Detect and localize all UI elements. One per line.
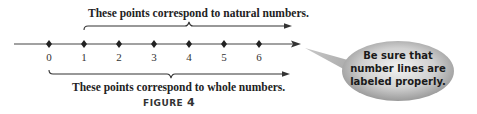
point-4 (186, 40, 192, 48)
figure-4-number-line: These points correspond to natural numbe… (0, 0, 477, 114)
point-3 (151, 40, 157, 48)
whole-numbers-caption: These points correspond to whole numbers… (72, 81, 285, 93)
whole-numbers-brace (49, 70, 286, 78)
tick-label-3: 3 (147, 51, 161, 63)
tick-label-0: 0 (42, 51, 56, 63)
whole-brace-arrowhead (282, 71, 290, 77)
tick-label-2: 2 (112, 51, 126, 63)
natural-numbers-caption: These points correspond to natural numbe… (88, 7, 309, 19)
callout-line-3: labeled properly. (348, 75, 448, 88)
point-2 (116, 40, 122, 48)
callout-line-1: Be sure that (348, 49, 448, 62)
figure-label: FIGURE 4 (143, 96, 195, 109)
natural-numbers-brace (84, 22, 288, 30)
figure-label-word: FIGURE (143, 98, 183, 108)
figure-label-number: 4 (187, 96, 195, 109)
point-0 (46, 40, 52, 48)
tick-label-6: 6 (252, 51, 266, 63)
point-5 (221, 40, 227, 48)
callout-text: Be sure that number lines are labeled pr… (348, 49, 448, 88)
tick-label-1: 1 (77, 51, 91, 63)
natural-brace-arrowhead (284, 23, 292, 29)
tick-label-5: 5 (217, 51, 231, 63)
point-1 (81, 40, 87, 48)
callout-line-2: number lines are (348, 62, 448, 75)
point-6 (256, 40, 262, 48)
tick-label-4: 4 (182, 51, 196, 63)
